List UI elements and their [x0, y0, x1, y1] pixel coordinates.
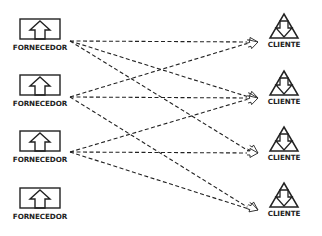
triangle-down-arrow-icon [270, 71, 298, 95]
connection-line [70, 98, 252, 152]
supplier-label: FORNECEDOR [13, 155, 68, 164]
connection-line [70, 152, 252, 153]
client-label: CLIENTE [268, 97, 301, 106]
connection-line [70, 97, 252, 210]
supplier-client-diagram: FORNECEDORFORNECEDORFORNECEDORFORNECEDOR… [0, 0, 322, 236]
client-label: CLIENTE [268, 153, 301, 162]
box-up-arrow-icon [20, 75, 60, 95]
supplier-label: FORNECEDOR [13, 99, 68, 108]
box-up-arrow-icon [20, 188, 60, 208]
supplier-node: FORNECEDOR [13, 19, 68, 52]
connection-lines [70, 37, 258, 211]
supplier-node: FORNECEDOR [13, 188, 68, 221]
supplier-label: FORNECEDOR [13, 43, 68, 52]
box-up-arrow-icon [20, 131, 60, 151]
supplier-nodes: FORNECEDORFORNECEDORFORNECEDORFORNECEDOR [13, 19, 68, 221]
supplier-label: FORNECEDOR [13, 212, 68, 221]
connection-line [70, 42, 252, 97]
supplier-node: FORNECEDOR [13, 75, 68, 108]
arrowhead-icon [247, 203, 258, 212]
client-node: CLIENTE [268, 71, 301, 106]
client-nodes: CLIENTECLIENTECLIENTECLIENTE [268, 14, 301, 218]
triangle-down-arrow-icon [270, 127, 298, 151]
connection-line [70, 41, 252, 98]
client-node: CLIENTE [268, 183, 301, 218]
connection-line [70, 41, 252, 42]
client-node: CLIENTE [268, 14, 301, 49]
client-label: CLIENTE [268, 209, 301, 218]
connection-line [70, 152, 252, 210]
triangle-down-arrow-icon [270, 183, 298, 207]
client-node: CLIENTE [268, 127, 301, 162]
box-up-arrow-icon [20, 19, 60, 39]
client-label: CLIENTE [268, 40, 301, 49]
supplier-node: FORNECEDOR [13, 131, 68, 164]
triangle-down-arrow-icon [270, 14, 298, 38]
